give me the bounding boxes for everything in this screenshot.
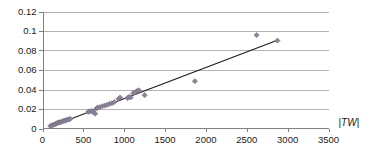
data-point-marker bbox=[142, 93, 147, 98]
x-tick-label: 0 bbox=[40, 134, 45, 145]
x-axis-title: |TW| bbox=[339, 117, 360, 128]
y-tick-label: 0.12 bbox=[18, 6, 37, 17]
x-tick-label: 1500 bbox=[155, 134, 176, 145]
y-tick-label: 0.02 bbox=[18, 103, 37, 114]
chart-canvas: 00.020.040.060.080.10.120500100015002000… bbox=[0, 0, 372, 162]
data-point-marker bbox=[254, 32, 259, 37]
y-tick-label: 0.06 bbox=[18, 64, 37, 75]
data-point-marker bbox=[275, 38, 280, 43]
scatter-chart: 00.020.040.060.080.10.120500100015002000… bbox=[0, 0, 372, 162]
x-tick-label: 3000 bbox=[277, 134, 298, 145]
x-tick-label: 2500 bbox=[236, 134, 257, 145]
x-tick-label: 2000 bbox=[195, 134, 216, 145]
trend-line bbox=[50, 40, 277, 126]
x-tick-label: 3500 bbox=[318, 134, 339, 145]
y-tick-label: 0.04 bbox=[18, 84, 37, 95]
data-point-marker bbox=[192, 79, 197, 84]
x-tick-label: 1000 bbox=[114, 134, 135, 145]
y-tick-label: 0 bbox=[31, 123, 36, 134]
y-tick-label: 0.08 bbox=[18, 45, 37, 56]
x-tick-label: 500 bbox=[75, 134, 91, 145]
y-tick-label: 0.1 bbox=[23, 25, 36, 36]
